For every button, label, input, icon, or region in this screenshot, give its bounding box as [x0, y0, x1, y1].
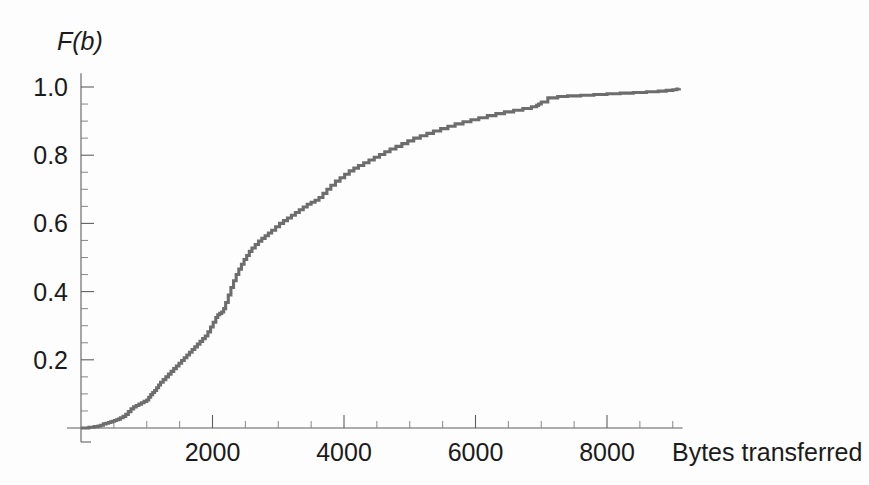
x-tick-label: 8000 [579, 438, 635, 466]
cdf-plot-svg: 0.20.40.60.81.0 2000400060008000 F(b) By… [0, 0, 869, 485]
cdf-figure: 0.20.40.60.81.0 2000400060008000 F(b) By… [0, 0, 869, 485]
x-axis: 2000400060008000 [67, 415, 683, 466]
y-tick-label: 1.0 [33, 73, 68, 101]
y-tick-label: 0.6 [33, 209, 68, 237]
x-tick-label: 2000 [185, 438, 241, 466]
y-axis: 0.20.40.60.81.0 [33, 73, 94, 442]
x-tick-label: 4000 [316, 438, 372, 466]
y-axis-title: F(b) [57, 27, 103, 55]
cdf-curve-group [81, 88, 679, 428]
y-tick-label: 0.4 [33, 278, 68, 306]
cdf-curve-path [81, 88, 679, 428]
y-tick-label: 0.2 [33, 346, 68, 374]
x-tick-label: 6000 [448, 438, 504, 466]
y-tick-label: 0.8 [33, 141, 68, 169]
x-axis-title: Bytes transferred [672, 438, 862, 466]
